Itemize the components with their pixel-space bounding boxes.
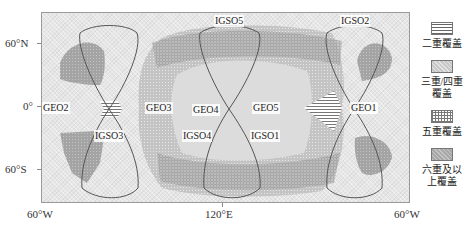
x-axis-label-120e: 120°E [205,208,233,220]
sat-label-igso3: IGSO3 [94,130,124,142]
sat-label-geo3: GEO3 [145,102,173,114]
y-axis-label-equator: 0° [23,100,33,112]
legend: 二重覆盖 三重/四重 覆盖 五重覆盖 六重及以 上覆盖 [412,22,472,198]
legend-item-triple-quad: 三重/四重 覆盖 [412,60,472,100]
coverage-region-east-north [357,43,392,81]
legend-label-triple-quad: 三重/四重 覆盖 [421,76,464,100]
y-axis-label-60s: 60°S [5,163,27,175]
legend-swatch-triple-quad [431,60,453,73]
legend-label-five: 五重覆盖 [422,126,462,138]
sat-label-igso1: IGSO1 [250,130,280,142]
legend-item-six-plus: 六重及以 上覆盖 [412,148,472,188]
legend-swatch-six-plus [431,148,453,161]
legend-label-triple-quad-line2: 覆盖 [432,88,452,99]
sat-label-geo4: GEO4 [192,104,220,116]
legend-item-double: 二重覆盖 [412,22,472,50]
legend-label-triple-quad-line1: 三重/四重 [421,76,464,87]
sat-label-igso5: IGSO5 [214,15,244,27]
legend-label-six-plus-line2: 上覆盖 [427,176,457,187]
sat-label-igso2: IGSO2 [340,15,370,27]
sat-label-geo2: GEO2 [42,102,70,114]
coverage-region-double-west [100,101,122,117]
legend-swatch-double [431,22,453,35]
coverage-map: GEO2 GEO3 GEO4 GEO5 GEO1 IGSO5 IGSO2 IGS… [41,12,410,203]
coverage-region-east-south [355,136,392,175]
legend-label-double: 二重覆盖 [422,38,462,50]
x-axis-label-60w-left: 60°W [27,208,53,220]
sat-label-geo5: GEO5 [252,102,280,114]
y-axis-label-60n: 60°N [5,37,28,49]
x-tick-120e [222,203,223,207]
coverage-region-west-north [60,42,105,85]
x-axis-label-60w-right: 60°W [394,208,420,220]
legend-label-five-text: 五重覆盖 [422,126,462,137]
sat-label-igso4: IGSO4 [182,130,212,142]
legend-swatch-five [431,110,453,123]
legend-label-six-plus-line1: 六重及以 [422,164,462,175]
legend-item-five: 五重覆盖 [412,110,472,138]
sat-label-geo1: GEO1 [350,102,378,114]
legend-label-double-text: 二重覆盖 [422,38,462,49]
legend-label-six-plus: 六重及以 上覆盖 [422,164,462,188]
